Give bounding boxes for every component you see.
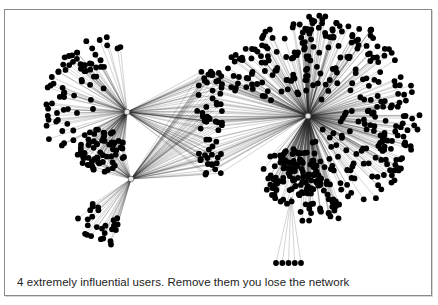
graph-node <box>283 54 289 60</box>
graph-node <box>356 119 362 125</box>
graph-node <box>196 92 202 98</box>
graph-node <box>66 53 72 59</box>
graph-node <box>411 122 417 128</box>
graph-node <box>63 67 69 73</box>
graph-node <box>106 142 112 148</box>
graph-node <box>320 127 326 133</box>
graph-node <box>353 66 359 72</box>
graph-node <box>312 151 318 157</box>
graph-node <box>296 91 302 97</box>
graph-node <box>210 71 216 77</box>
graph-node <box>249 82 255 88</box>
graph-node <box>361 97 367 103</box>
graph-node <box>200 110 206 116</box>
graph-node <box>59 128 65 134</box>
graph-node <box>110 129 116 135</box>
graph-node <box>322 30 328 36</box>
graph-node <box>292 260 298 266</box>
graph-node <box>225 65 231 71</box>
graph-node <box>206 147 212 153</box>
graph-node <box>291 158 297 164</box>
graph-node <box>377 140 383 146</box>
graph-node <box>387 167 393 173</box>
graph-node <box>374 104 380 110</box>
graph-node <box>280 175 286 181</box>
graph-node <box>60 85 66 91</box>
graph-node <box>119 145 125 151</box>
graph-node <box>306 218 312 224</box>
graph-node <box>82 132 88 138</box>
graph-node <box>206 115 212 121</box>
graph-node <box>348 87 354 93</box>
graph-node <box>250 69 256 75</box>
graph-node <box>71 93 77 99</box>
graph-node <box>326 45 332 51</box>
graph-node <box>360 76 366 82</box>
graph-node <box>218 73 224 79</box>
graph-node <box>389 50 395 56</box>
graph-node <box>349 80 355 86</box>
graph-node <box>219 108 225 114</box>
graph-node <box>298 150 304 156</box>
graph-node <box>79 62 85 68</box>
graph-node <box>400 120 406 126</box>
graph-node <box>338 187 344 193</box>
graph-node <box>97 37 103 43</box>
graph-node <box>344 167 350 173</box>
graph-node <box>88 97 94 103</box>
graph-node <box>285 86 291 92</box>
graph-node <box>196 151 202 157</box>
graph-node <box>328 166 334 172</box>
graph-node <box>274 49 280 55</box>
graph-node <box>371 128 377 134</box>
graph-node <box>270 72 276 78</box>
graph-node <box>70 128 76 134</box>
graph-node <box>377 69 383 75</box>
graph-node <box>101 135 107 141</box>
graph-node <box>243 46 249 52</box>
graph-node <box>219 122 225 128</box>
graph-node <box>273 260 279 266</box>
graph-node <box>90 201 96 207</box>
graph-node <box>254 81 260 87</box>
graph-node <box>245 76 251 82</box>
graph-node <box>85 216 91 222</box>
graph-node <box>79 79 85 85</box>
graph-node <box>343 109 349 115</box>
graph-node <box>309 158 315 164</box>
graph-node <box>378 157 384 163</box>
graph-node <box>362 121 368 127</box>
graph-node <box>218 170 224 176</box>
hub-node <box>128 176 134 182</box>
graph-node <box>381 172 387 178</box>
graph-node <box>85 155 91 161</box>
graph-node <box>272 163 278 169</box>
graph-node <box>310 20 316 26</box>
graph-node <box>118 44 124 50</box>
graph-node <box>287 187 293 193</box>
graph-node <box>277 153 283 159</box>
graph-node <box>401 141 407 147</box>
graph-node <box>108 238 114 244</box>
graph-node <box>291 21 297 27</box>
graph-node <box>382 53 388 59</box>
graph-node <box>335 154 341 160</box>
graph-node <box>353 38 359 44</box>
graph-node <box>64 121 70 127</box>
graph-node <box>114 215 120 221</box>
graph-node <box>304 66 310 72</box>
graph-node <box>398 166 404 172</box>
graph-node <box>349 108 355 114</box>
graph-node <box>278 199 284 205</box>
graph-node <box>268 173 274 179</box>
graph-node <box>51 81 57 87</box>
graph-node <box>217 91 223 97</box>
graph-node <box>243 84 249 90</box>
graph-node <box>405 127 411 133</box>
graph-node <box>364 126 370 132</box>
graph-node <box>93 52 99 58</box>
graph-node <box>260 33 266 39</box>
graph-node <box>367 58 373 64</box>
graph-node <box>316 50 322 56</box>
graph-node <box>99 226 105 232</box>
